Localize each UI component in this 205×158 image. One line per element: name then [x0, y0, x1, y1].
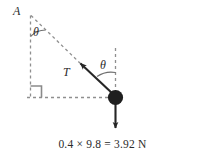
weight-caption: 0.4 × 9.8 = 3.92 N	[0, 138, 205, 150]
string-extension-dashed-line	[31, 16, 83, 67]
angle-label-pivot: θ	[33, 26, 39, 38]
angle-arc-bob	[97, 72, 116, 76]
tension-label: T	[63, 66, 70, 78]
tension-force-arrow	[81, 64, 114, 95]
angle-label-bob: θ	[100, 59, 106, 71]
right-angle-marker	[31, 86, 42, 98]
diagram-canvas	[0, 0, 205, 158]
pendulum-bob	[108, 90, 123, 105]
physics-diagram: A T θ θ 0.4 × 9.8 = 3.92 N	[0, 0, 205, 158]
pivot-point-label: A	[13, 5, 20, 17]
